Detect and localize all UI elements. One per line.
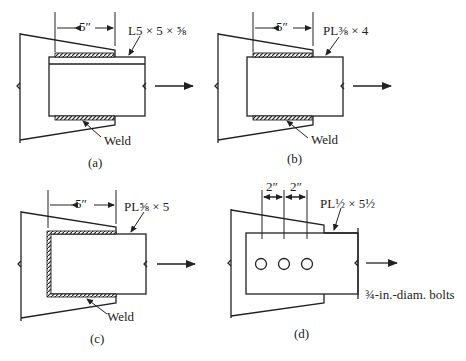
panel-d-caption: (d) (294, 327, 309, 341)
panel-d-bolt-label: ¾-in.-diam. bolts (365, 288, 455, 302)
panel-c-weld-label: Weld (107, 310, 134, 324)
panel-b-member-label: PL⅜ × 4 (323, 24, 368, 38)
panel-c-caption: (c) (90, 332, 104, 346)
panel-b-dimension: 5″ (276, 20, 288, 34)
panel-a-caption: (a) (88, 156, 102, 170)
panel-a-weld-label: Weld (104, 134, 131, 148)
panel-d-dimension-1: 2″ (266, 180, 278, 194)
panel-a-member-label: L5 × 5 × ⅝ (128, 24, 186, 38)
panel-d-member-label: PL½ × 5½ (320, 197, 375, 211)
panel-c-dimension: 5″ (75, 197, 87, 211)
panel-c-member-label: PL⅝ × 5 (124, 200, 169, 214)
panel-b-weld-label: Weld (311, 133, 338, 147)
diagram-canvas (0, 0, 466, 361)
panel-b-caption: (b) (287, 152, 302, 166)
panel-a-dimension: 5″ (79, 20, 91, 34)
panel-d-dimension-2: 2″ (290, 180, 302, 194)
